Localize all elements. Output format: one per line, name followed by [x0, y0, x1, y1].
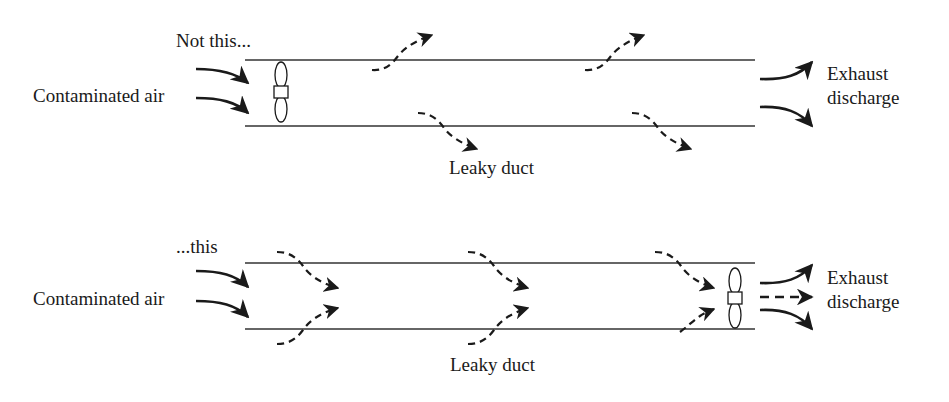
- bottom-outlet-label-line1: Exhaust: [827, 267, 888, 289]
- top-exhaust-arrow-upper: [760, 62, 812, 79]
- top-inlet-label: Contaminated air: [33, 85, 164, 107]
- bottom-outlet-label-line2: discharge: [827, 291, 899, 313]
- bottom-leak-label: Leaky duct: [450, 354, 535, 376]
- top-inlet-arrow-lower: [196, 98, 248, 113]
- bottom-exhaust-arrow-upper: [760, 265, 812, 283]
- top-exhaust-arrow-lower: [760, 107, 812, 126]
- leak-arrow-outward: [632, 113, 691, 149]
- leak-arrow-outward: [372, 35, 432, 70]
- leak-arrow-inward: [655, 252, 714, 288]
- fan-icon: [728, 268, 742, 328]
- top-outlet-label-line1: Exhaust: [827, 63, 888, 85]
- leak-arrow-inward: [277, 252, 338, 288]
- duct-fan-placement-diagram: Not this... Contaminated air Leaky duct …: [0, 0, 949, 402]
- bottom-inlet-label: Contaminated air: [33, 288, 164, 310]
- diagram-graphics: [0, 0, 949, 402]
- bottom-caption: ...this: [176, 236, 218, 258]
- bottom-panel: [196, 252, 812, 344]
- leak-arrow-inward: [277, 308, 338, 344]
- leak-arrow-outward: [585, 35, 644, 70]
- leak-arrow-inward: [468, 308, 528, 344]
- top-panel: [196, 35, 812, 149]
- leak-arrow-outward: [418, 113, 477, 149]
- bottom-exhaust-arrow-lower: [760, 310, 812, 329]
- top-leak-label: Leaky duct: [449, 157, 534, 179]
- leak-arrow-inward: [468, 252, 528, 288]
- top-inlet-arrow-upper: [196, 69, 248, 83]
- bottom-inlet-arrow-lower: [196, 301, 248, 317]
- fan-icon: [274, 62, 288, 122]
- top-caption: Not this...: [176, 30, 251, 52]
- top-outlet-label-line2: discharge: [827, 87, 899, 109]
- bottom-inlet-arrow-upper: [196, 271, 248, 287]
